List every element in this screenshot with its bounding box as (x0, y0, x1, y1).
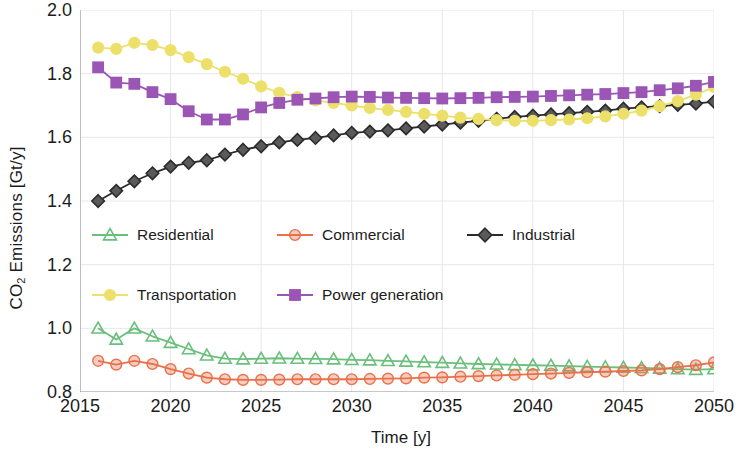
legend-swatch-icon (275, 286, 315, 304)
legend-swatch-icon (465, 226, 505, 244)
legend-swatch-icon (90, 286, 130, 304)
x-tick-label: 2025 (221, 396, 301, 417)
legend-item-transportation[interactable]: Transportation (90, 286, 236, 304)
legend-item-industrial[interactable]: Industrial (465, 226, 575, 244)
chart-legend: ResidentialCommercialIndustrial Transpor… (90, 222, 650, 282)
y-tick-label: 1.2 (12, 254, 72, 275)
legend-row: TransportationPower generation (90, 252, 650, 282)
legend-swatch-icon (275, 226, 315, 244)
y-tick-label: 1.6 (12, 127, 72, 148)
y-tick-label: 1.0 (12, 318, 72, 339)
x-tick-label: 2020 (131, 396, 211, 417)
chart-canvas (80, 10, 714, 392)
x-tick-label: 2050 (674, 396, 738, 417)
x-tick-label: 2030 (312, 396, 392, 417)
legend-item-power-generation[interactable]: Power generation (275, 286, 444, 304)
legend-row: ResidentialCommercialIndustrial (90, 222, 650, 252)
plot-area: 2.01.81.61.41.21.00.8 201520202025203020… (80, 10, 714, 392)
legend-swatch-icon (90, 226, 130, 244)
x-tick-label: 2040 (493, 396, 573, 417)
x-tick-label: 2015 (40, 396, 120, 417)
y-tick-label: 2.0 (12, 0, 72, 21)
y-tick-label: 1.8 (12, 63, 72, 84)
legend-label: Transportation (137, 286, 236, 304)
legend-label: Industrial (512, 226, 575, 244)
legend-item-commercial[interactable]: Commercial (275, 226, 405, 244)
legend-label: Power generation (322, 286, 444, 304)
x-tick-label: 2035 (402, 396, 482, 417)
y-tick-label: 1.4 (12, 191, 72, 212)
legend-item-residential[interactable]: Residential (90, 226, 214, 244)
y-axis-label-text: CO2 Emissions [Gt/y] (7, 146, 27, 309)
legend-label: Residential (137, 226, 214, 244)
x-axis-label: Time [y] (80, 428, 722, 448)
legend-label: Commercial (322, 226, 405, 244)
x-tick-label: 2045 (583, 396, 663, 417)
